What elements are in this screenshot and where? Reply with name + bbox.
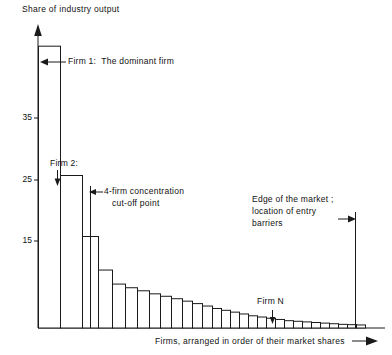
bar [138,291,150,328]
bar [330,324,339,328]
bar [193,304,203,328]
y-tick-label-15: 15 [10,235,32,245]
bar [285,321,294,328]
annotation-market-edge-line-3: barriers [252,218,283,229]
bar [339,324,348,328]
annotation-cutoff-line-1: 4-firm concentration [104,186,184,197]
bar [231,312,240,328]
annotation-market-edge-line-1: Edge of the market ; [252,194,334,205]
annotation-cutoff-line-2: cut-off point [112,198,160,209]
chart-canvas [0,0,392,355]
bar [161,296,172,328]
bar-series [39,46,366,328]
y-axis-arrow-icon [34,24,42,36]
y-tick-label-25: 25 [10,174,32,184]
bar [172,299,183,328]
bar [222,310,231,328]
market-edge-arrow-icon [348,216,356,223]
bar [357,325,366,328]
bar [303,322,312,328]
bar [213,308,222,328]
bar [294,321,303,328]
bar [321,323,330,328]
bar [61,176,83,329]
bar [258,317,267,328]
y-axis-title: Share of industry output [22,4,119,14]
bar [113,284,126,328]
annotation-market-edge-line-2: location of entry [252,206,316,217]
bar [126,288,138,328]
x-axis-title: Firms, arranged in order of their market… [155,336,345,346]
y-tick-label-35: 35 [10,112,32,122]
bar [240,314,249,328]
x-axis-arrow-icon [366,336,378,345]
bar [249,316,258,328]
chart-figure: Share of industry output 35 25 15 Firm 1… [0,0,392,355]
bar [203,306,213,328]
bar [276,319,285,328]
annotation-firm-2: Firm 2: [50,158,78,169]
annotation-firm-n: Firm N [257,296,284,307]
bar [39,46,61,328]
bar [312,323,321,328]
annotation-firm-1: Firm 1: The dominant firm [68,56,174,67]
bar [183,301,193,328]
bar [150,294,161,328]
bar [99,270,113,328]
